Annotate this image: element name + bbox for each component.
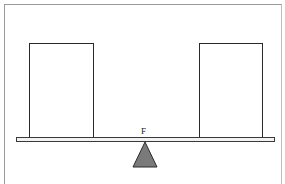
left-load-box: [29, 43, 94, 138]
fulcrum-triangle-icon: [130, 140, 160, 170]
right-load-box: [199, 43, 263, 138]
fulcrum-label: F: [141, 126, 146, 136]
